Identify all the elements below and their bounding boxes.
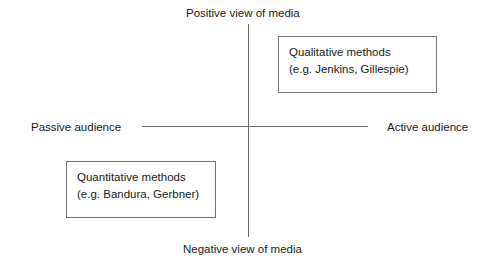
axis-label-passive-audience: Passive audience [31, 120, 121, 134]
axis-label-active-audience: Active audience [387, 120, 468, 134]
quadrant-box-examples: (e.g. Bandura, Gerbner) [77, 186, 205, 203]
quadrant-box-title: Quantitative methods [77, 169, 205, 186]
axis-label-positive-view-of-media: Positive view of media [186, 6, 300, 20]
axis-label-negative-view-of-media: Negative view of media [183, 242, 302, 256]
quadrant-box-quantitative-methods: Quantitative methods (e.g. Bandura, Gerb… [66, 161, 216, 218]
quadrant-box-qualitative-methods: Qualitative methods (e.g. Jenkins, Gille… [278, 36, 437, 93]
quadrant-box-examples: (e.g. Jenkins, Gillespie) [289, 61, 426, 78]
vertical-axis-line [248, 24, 249, 237]
quadrant-box-title: Qualitative methods [289, 44, 426, 61]
horizontal-axis-line [142, 126, 368, 127]
quadrant-diagram: Positive view of media Negative view of … [0, 0, 501, 266]
